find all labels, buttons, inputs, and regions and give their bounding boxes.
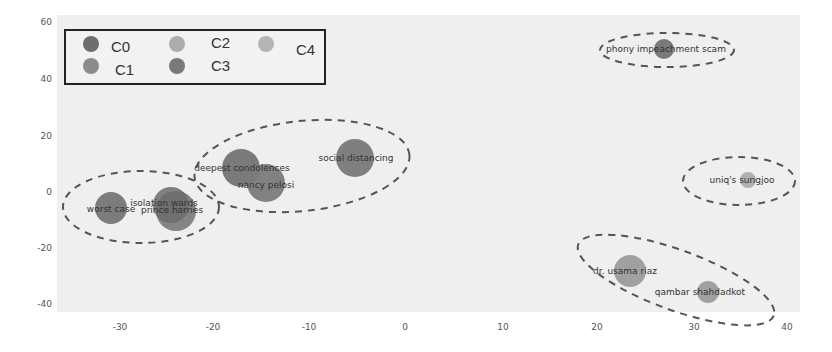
legend-label-c3: C3 (211, 57, 230, 74)
label-social-distancing: social distancing (318, 153, 393, 163)
legend-marker-c0 (83, 36, 99, 52)
y-axis: 60 40 20 0 -20 -40 (37, 17, 52, 309)
x-tick-neg10: -10 (302, 322, 317, 332)
x-tick-10: 10 (497, 322, 509, 332)
x-axis: -30 -20 -10 0 10 20 30 40 (113, 322, 793, 332)
label-uniqs-sungjoo: uniq's sungjoo (710, 175, 775, 185)
label-phony-impeachment-scam: phony impeachment scam (606, 44, 726, 54)
x-tick-40: 40 (781, 322, 793, 332)
label-worst-case: worst case (87, 204, 136, 214)
label-prince-harries: prince harries (141, 205, 203, 215)
label-dr-usama-riaz: dr. usama riaz (593, 266, 657, 276)
legend-marker-c1 (83, 58, 99, 74)
y-tick-0: 0 (46, 187, 52, 197)
legend-marker-c4 (258, 36, 274, 52)
legend-label-c1: C1 (115, 61, 134, 78)
legend-label-c2: C2 (211, 34, 230, 51)
label-nancy-pelosi: nancy pelosi (238, 180, 295, 190)
x-tick-neg20: -20 (206, 322, 221, 332)
legend-marker-c2 (169, 36, 185, 52)
scatter-chart: 60 40 20 0 -20 -40 -30 -20 -10 0 10 20 3… (0, 0, 832, 352)
x-tick-20: 20 (591, 322, 603, 332)
y-tick-neg20: -20 (37, 243, 52, 253)
legend-label-c4: C4 (296, 41, 315, 58)
legend-box (65, 30, 325, 84)
y-tick-20: 20 (41, 131, 53, 141)
y-tick-60: 60 (41, 17, 53, 27)
x-tick-neg30: -30 (113, 322, 128, 332)
x-tick-30: 30 (688, 322, 700, 332)
label-deepest-condolences: deepest condolences (194, 163, 290, 173)
legend: C0 C1 C2 C3 C4 (65, 30, 325, 84)
legend-marker-c3 (169, 58, 185, 74)
label-qambar-shahdadkot: qambar shahdadkot (655, 287, 746, 297)
legend-label-c0: C0 (111, 38, 130, 55)
y-tick-neg40: -40 (37, 299, 52, 309)
y-tick-40: 40 (41, 74, 53, 84)
x-tick-0: 0 (402, 322, 408, 332)
